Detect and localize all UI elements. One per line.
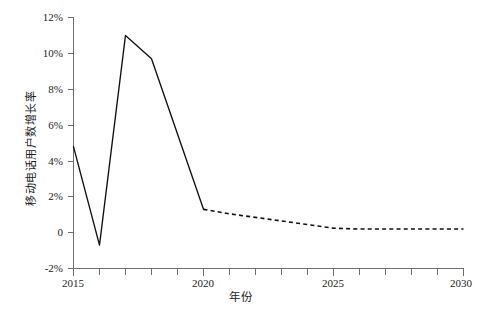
x-axis-title: 年份 bbox=[0, 288, 481, 304]
figure-caption bbox=[0, 309, 481, 317]
x-axis: 2015 2020 2025 2030 bbox=[62, 269, 473, 290]
y-tick-label-10: 10% bbox=[43, 47, 63, 59]
y-tick-label-8: 8% bbox=[48, 83, 63, 95]
line-chart: 12% 10% 8% 6% 4% 2% 0 -2% bbox=[0, 0, 481, 317]
y-tick-label-6: 6% bbox=[48, 119, 63, 131]
y-tick-label-4: 4% bbox=[48, 155, 63, 167]
series-forecast-line bbox=[204, 209, 464, 229]
y-tick-label-0: 0 bbox=[58, 226, 64, 238]
y-axis: 12% 10% 8% 6% 4% 2% 0 -2% bbox=[43, 11, 74, 274]
y-tick-label-12: 12% bbox=[43, 11, 63, 23]
y-axis-title: 移动电话用户数增长率 bbox=[22, 48, 38, 248]
series-historical-line bbox=[74, 35, 204, 245]
series-group bbox=[74, 35, 464, 245]
y-tick-label-2: 2% bbox=[48, 190, 63, 202]
figure-container: 12% 10% 8% 6% 4% 2% 0 -2% bbox=[0, 0, 481, 317]
y-tick-label-neg2: -2% bbox=[45, 262, 63, 274]
